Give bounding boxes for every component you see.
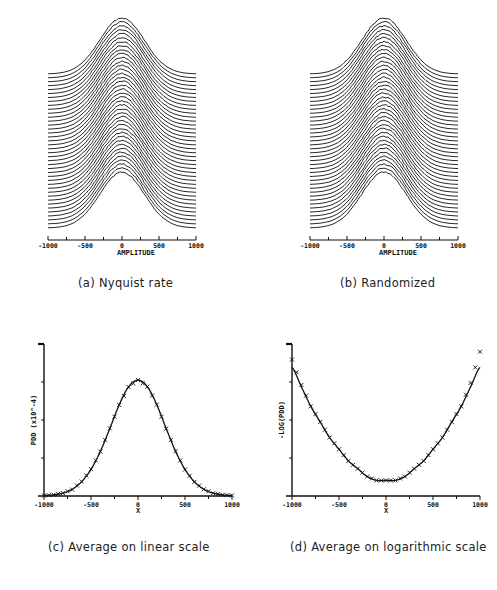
x-marker [473,365,477,369]
waterfall-plot-a: -1000-50005001000AMPLITUDE [0,0,248,260]
x-tick-label: -500 [331,501,347,509]
x-marker [431,447,435,451]
panel-a-waterfall: -1000-50005001000AMPLITUDE [0,0,248,300]
x-tick-label: -1000 [282,501,302,509]
measured-markers [290,350,482,483]
linear-average-plot: -1000-50005001000XPDD (x10^-4) [0,320,248,520]
x-tick-label: -500 [339,242,355,250]
x-marker [346,459,350,463]
x-axis-label: X [384,507,389,515]
x-tick-label: 1000 [188,242,204,250]
caption-b: (b) Randomized [340,276,435,290]
x-marker [192,480,196,484]
x-marker [361,471,365,475]
x-marker [412,467,416,471]
x-marker [318,420,322,424]
x-marker [202,487,206,491]
x-marker [417,463,421,467]
x-marker [426,453,430,457]
x-marker [422,459,426,463]
x-marker [403,475,407,479]
x-tick-label: -1000 [34,501,54,509]
x-marker [365,475,369,479]
y-axis-label: -LOG(PDD) [278,401,286,439]
waterfall-plot-b: -1000-50005001000AMPLITUDE [248,0,497,260]
x-tick-label: -500 [77,242,93,250]
x-marker [328,436,332,440]
log-average-plot: -1000-50005001000X-LOG(PDD) [248,320,497,520]
axes [38,344,232,500]
waterfall-traces [310,18,458,232]
x-tick-label: -500 [83,501,99,509]
x-tick-label: -1000 [38,242,58,250]
x-axis-label: AMPLITUDE [379,249,417,257]
x-marker [450,420,454,424]
y-axis-label: PDD (x10^-4) [30,395,38,446]
waterfall-traces [48,18,196,232]
x-marker [440,436,444,440]
axes [286,344,480,500]
x-marker [342,453,346,457]
x-marker [436,441,440,445]
measured-markers [42,378,234,498]
panel-c-linear: -1000-50005001000XPDD (x10^-4) [0,320,248,520]
theoretical-curve [292,367,480,480]
x-marker [478,350,482,354]
x-marker [145,385,149,389]
panel-d-log: -1000-50005001000X-LOG(PDD) [248,320,497,520]
x-tick-label: 1000 [472,501,488,509]
caption-c: (c) Average on linear scale [48,540,210,554]
panel-b-waterfall: -1000-50005001000AMPLITUDE [248,0,497,300]
x-axis-label: AMPLITUDE [117,249,155,257]
x-marker [356,467,360,471]
x-tick-label: 500 [179,501,191,509]
x-tick-label: 500 [427,501,439,509]
x-tick-label: 1000 [450,242,466,250]
x-axis [48,236,196,240]
x-axis-label: X [136,507,141,515]
x-marker [408,471,412,475]
x-marker [351,463,355,467]
caption-a: (a) Nyquist rate [78,276,173,290]
x-tick-label: 1000 [224,501,240,509]
x-marker [127,385,131,389]
x-axis [310,236,458,240]
x-marker [80,480,84,484]
theoretical-curve [44,380,232,495]
x-marker [332,441,336,445]
x-marker [337,447,341,451]
caption-d: (d) Average on logarithmic scale [290,540,487,554]
x-tick-label: -1000 [300,242,320,250]
